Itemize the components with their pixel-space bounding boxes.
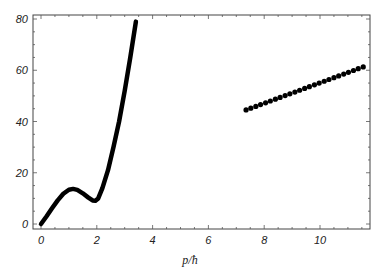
axis-ticks [33, 15, 370, 229]
y-tick-label: 60 [16, 64, 29, 76]
y-tick-label: 20 [15, 167, 29, 179]
data-point [283, 93, 288, 98]
x-tick-label: 6 [205, 234, 212, 246]
data-point [356, 66, 361, 71]
data-point [346, 70, 351, 75]
data-point [351, 68, 356, 73]
data-point [297, 88, 302, 93]
data-point [258, 102, 263, 107]
data-point [326, 77, 331, 82]
data-point [312, 82, 317, 87]
data-point [361, 64, 366, 69]
x-tick-label: 4 [150, 234, 156, 246]
plot-frame [33, 15, 370, 229]
continuous-curve-series [41, 22, 136, 224]
data-point [287, 91, 292, 96]
data-point [302, 86, 307, 91]
data-point [268, 98, 273, 103]
data-point [322, 79, 327, 84]
discrete-points-series [243, 64, 365, 112]
data-point [317, 80, 322, 85]
x-tick-label: 2 [93, 234, 100, 246]
x-tick-label: 10 [314, 234, 327, 246]
x-tick-label: 0 [38, 234, 45, 246]
data-point [336, 73, 341, 78]
data-point [263, 100, 268, 105]
data-point [292, 89, 297, 94]
data-point [273, 97, 278, 102]
data-point [253, 104, 258, 109]
x-tick-labels: 0246810 [38, 234, 327, 246]
data-point [248, 106, 253, 111]
data-point [278, 95, 283, 100]
data-point [331, 75, 336, 80]
y-tick-label: 40 [16, 116, 29, 128]
y-tick-label: 80 [16, 13, 29, 25]
x-axis-title: p/ħ [181, 253, 197, 267]
chart: 0246810 020406080 p/ħ [0, 0, 382, 273]
y-tick-label: 0 [22, 218, 29, 230]
data-point [243, 107, 248, 112]
y-tick-labels: 020406080 [15, 13, 29, 230]
data-point [341, 71, 346, 76]
x-tick-label: 8 [261, 234, 268, 246]
data-point [307, 84, 312, 89]
